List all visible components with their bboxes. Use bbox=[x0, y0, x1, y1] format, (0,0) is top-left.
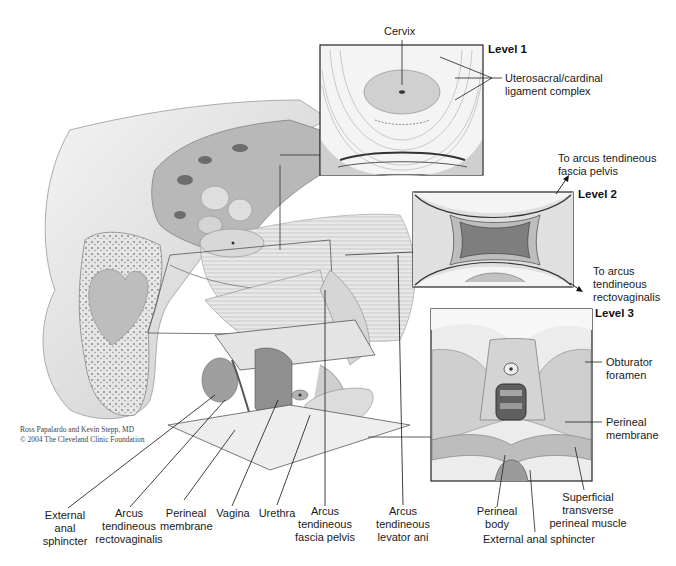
label-atla-3: levator ani bbox=[375, 531, 431, 544]
label-external-anal-sphincter-3: sphincter bbox=[40, 535, 90, 548]
label-atfp-3: fascia pelvis bbox=[294, 531, 356, 544]
label-atla-1: Arcus bbox=[375, 505, 431, 518]
credit-authors: Ross Papalardo and Kevin Stepp, MD bbox=[20, 425, 134, 435]
label-atrv-2: tendineous bbox=[93, 520, 165, 533]
label-vagina: Vagina bbox=[213, 507, 253, 520]
label-obturator-2: foramen bbox=[606, 369, 646, 382]
label-uterosacral-cardinal-1: Uterosacral/cardinal bbox=[505, 72, 603, 85]
label-perineal-membrane-2: membrane bbox=[160, 520, 212, 533]
level-2-title: Level 2 bbox=[578, 188, 617, 200]
label-superficial-transverse-3: perineal muscle bbox=[540, 517, 636, 530]
label-uterosacral-cardinal-2: ligament complex bbox=[505, 85, 591, 98]
level-3-title: Level 3 bbox=[595, 307, 634, 319]
lower-structures bbox=[168, 320, 431, 470]
label-urethra: Urethra bbox=[256, 507, 298, 520]
level-2-inset bbox=[413, 175, 583, 292]
label-perineal-membrane-r2: membrane bbox=[606, 429, 659, 442]
label-to-atrv-1: To arcus bbox=[593, 265, 635, 278]
label-external-anal-sphincter-1: External bbox=[40, 509, 90, 522]
label-external-anal-sphincter-r: External anal sphincter bbox=[483, 533, 595, 546]
label-perineal-membrane-r1: Perineal bbox=[606, 416, 646, 429]
label-external-anal-sphincter-2: anal bbox=[40, 522, 90, 535]
label-to-atrv-3: rectovaginalis bbox=[593, 291, 660, 304]
label-perineal-body-2: body bbox=[470, 518, 524, 531]
level-1-title: Level 1 bbox=[488, 43, 527, 55]
label-perineal-body-1: Perineal bbox=[470, 505, 524, 518]
label-cervix: Cervix bbox=[384, 25, 415, 38]
label-obturator-1: Obturator bbox=[606, 356, 652, 369]
label-atrv-3: rectovaginalis bbox=[93, 533, 165, 546]
label-perineal-membrane-1: Perineal bbox=[160, 507, 212, 520]
label-superficial-transverse-2: transverse bbox=[555, 504, 621, 517]
label-to-atfp-1: To arcus tendineous bbox=[558, 152, 656, 165]
label-to-atfp-2: fascia pelvis bbox=[558, 165, 618, 178]
label-atfp-2: tendineous bbox=[294, 518, 356, 531]
label-atla-2: tendineous bbox=[375, 518, 431, 531]
credit-copyright: © 2004 The Cleveland Clinic Foundation bbox=[20, 435, 145, 445]
pelvic-support-levels-diagram: Cervix Level 1 Uterosacral/cardinal liga… bbox=[0, 0, 676, 566]
label-atfp-1: Arcus bbox=[294, 505, 356, 518]
label-superficial-transverse-1: Superficial bbox=[555, 491, 621, 504]
level-1-inset bbox=[320, 40, 502, 176]
label-to-atrv-2: tendineous bbox=[593, 278, 647, 291]
label-atrv-1: Arcus bbox=[93, 507, 165, 520]
